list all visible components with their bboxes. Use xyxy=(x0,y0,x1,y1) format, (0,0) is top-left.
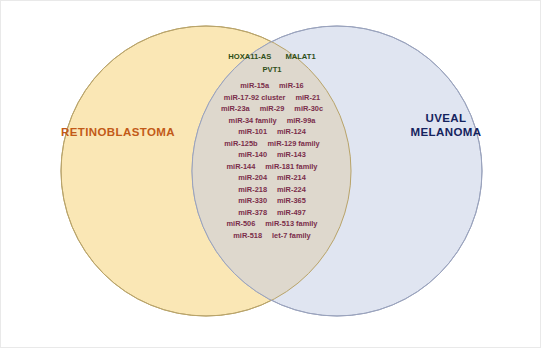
mirna-row: miR-506miR-513 family xyxy=(182,220,362,227)
right-set-label-line1: UVEAL xyxy=(426,112,467,124)
mirna-item: miR-144 xyxy=(227,163,256,170)
right-set-label-line2: MELANOMA xyxy=(411,126,482,138)
mirna-item: miR-224 xyxy=(277,186,306,193)
mirna-item: miR-99a xyxy=(287,117,316,124)
right-set-label: UVEAL MELANOMA xyxy=(371,111,521,140)
mirna-row: miR-15amiR-16 xyxy=(182,82,362,89)
mirna-item: let-7 family xyxy=(272,232,311,239)
mirna-row: miR-378miR-497 xyxy=(182,209,362,216)
mirna-row: miR-218miR-224 xyxy=(182,186,362,193)
lncrna-item: PVT1 xyxy=(263,66,282,74)
mirna-item: miR-30c xyxy=(294,105,323,112)
mirna-row: miR-34 familymiR-99a xyxy=(182,117,362,124)
lncrna-row: HOXA11-ASMALAT1 xyxy=(182,53,362,61)
mirna-row: miR-204miR-214 xyxy=(182,174,362,181)
mirna-item: miR-143 xyxy=(277,151,306,158)
mirna-row: miR-518let-7 family xyxy=(182,232,362,239)
mirna-item: miR-365 xyxy=(277,197,306,204)
mirna-item: miR-23a xyxy=(221,105,250,112)
mirna-item: miR-21 xyxy=(295,94,320,101)
mirna-row: miR-23amiR-29miR-30c xyxy=(182,105,362,112)
mirna-row: miR-144miR-181 family xyxy=(182,163,362,170)
mirna-item: miR-506 xyxy=(227,220,256,227)
mirna-row: miR-101miR-124 xyxy=(182,128,362,135)
intersection-gene-list: HOXA11-ASMALAT1PVT1miR-15amiR-16miR-17-9… xyxy=(182,53,362,243)
mirna-item: miR-125b xyxy=(224,140,257,147)
mirna-item: miR-129 family xyxy=(268,140,320,147)
mirna-item: miR-214 xyxy=(277,174,306,181)
mirna-item: miR-204 xyxy=(238,174,267,181)
mirna-row: miR-330miR-365 xyxy=(182,197,362,204)
left-set-label-text: RETINOBLASTOMA xyxy=(61,126,175,138)
mirna-item: miR-497 xyxy=(277,209,306,216)
mirna-row: miR-125bmiR-129 family xyxy=(182,140,362,147)
mirna-item: miR-34 family xyxy=(229,117,277,124)
mirna-row: miR-17-92 clustermiR-21 xyxy=(182,94,362,101)
lncrna-item: HOXA11-AS xyxy=(228,53,271,61)
mirna-row: miR-140miR-143 xyxy=(182,151,362,158)
mirna-item: miR-17-92 cluster xyxy=(224,94,286,101)
lncrna-item: MALAT1 xyxy=(285,53,315,61)
lncrna-row: PVT1 xyxy=(182,66,362,74)
mirna-item: miR-101 xyxy=(238,128,267,135)
mirna-item: miR-140 xyxy=(238,151,267,158)
mirna-item: miR-518 xyxy=(233,232,262,239)
mirna-item: miR-16 xyxy=(279,82,304,89)
venn-diagram-figure: RETINOBLASTOMA UVEAL MELANOMA HOXA11-ASM… xyxy=(0,0,541,348)
mirna-item: miR-378 xyxy=(238,209,267,216)
mirna-item: miR-330 xyxy=(238,197,267,204)
mirna-item: miR-513 family xyxy=(265,220,317,227)
mirna-item: miR-124 xyxy=(277,128,306,135)
mirna-item: miR-181 family xyxy=(265,163,317,170)
mirna-item: miR-15a xyxy=(240,82,269,89)
mirna-item: miR-29 xyxy=(260,105,285,112)
mirna-item: miR-218 xyxy=(238,186,267,193)
